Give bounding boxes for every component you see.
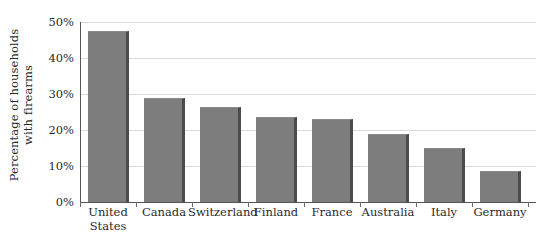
- bar-slot: [417, 22, 473, 202]
- bar-finland[interactable]: [256, 117, 297, 202]
- x-label-line-1: Finland: [254, 205, 298, 219]
- x-label-line-1: United: [88, 205, 128, 219]
- y-tick-label: 30%: [48, 88, 74, 100]
- y-axis-title-line-2: with firearms: [21, 29, 35, 181]
- x-label-line-2: States: [76, 220, 140, 234]
- bar-slot: [249, 22, 305, 202]
- x-label-france: France: [300, 206, 364, 220]
- y-tick-label: 10%: [48, 160, 74, 172]
- bar-slot: [81, 22, 137, 202]
- x-label-switzerland: Switzerland: [188, 206, 252, 220]
- x-label-canada: Canada: [132, 206, 196, 220]
- x-label-line-1: Italy: [431, 205, 457, 219]
- bar-slot: [361, 22, 417, 202]
- x-label-line-1: Australia: [362, 205, 415, 219]
- bar-united-states[interactable]: [88, 31, 129, 202]
- y-axis-title-line-1: Percentage of households: [7, 29, 21, 181]
- x-label-line-1: Germany: [473, 205, 526, 219]
- x-axis-labels: United States Canada Switzerland Finland…: [80, 206, 536, 238]
- y-axis-title: Percentage of households with firearms: [0, 0, 42, 210]
- bar-slot: [137, 22, 193, 202]
- bar-canada[interactable]: [144, 98, 185, 202]
- bar-italy[interactable]: [424, 148, 465, 202]
- bar-slot: [305, 22, 361, 202]
- x-label-united-states: United States: [76, 206, 140, 233]
- x-label-line-1: Canada: [142, 205, 186, 219]
- y-axis-tick-labels: 50% 40% 30% 20% 10% 0%: [38, 0, 78, 238]
- bars-layer: [81, 22, 536, 202]
- bar-slot: [473, 22, 529, 202]
- plot-area: [80, 22, 536, 202]
- y-tick-label: 50%: [48, 16, 74, 28]
- x-label-line-1: France: [312, 205, 353, 219]
- bar-france[interactable]: [312, 119, 353, 202]
- x-label-finland: Finland: [244, 206, 308, 220]
- bar-slot: [193, 22, 249, 202]
- y-tick-label: 40%: [48, 52, 74, 64]
- x-label-australia: Australia: [356, 206, 420, 220]
- x-label-italy: Italy: [412, 206, 476, 220]
- bar-australia[interactable]: [368, 134, 409, 202]
- x-label-germany: Germany: [468, 206, 532, 220]
- bar-germany[interactable]: [480, 171, 521, 202]
- bar-chart: Percentage of households with firearms 5…: [0, 0, 544, 238]
- y-tick-label: 20%: [48, 124, 74, 136]
- bar-switzerland[interactable]: [200, 107, 241, 202]
- y-tick-label: 0%: [56, 196, 74, 208]
